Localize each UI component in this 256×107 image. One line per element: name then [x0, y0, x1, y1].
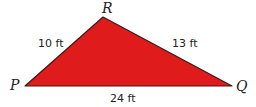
vertex-label-p: P	[9, 77, 20, 93]
side-label-rq: 13 ft	[172, 37, 198, 50]
side-label-pq: 24 ft	[110, 92, 136, 105]
triangle-diagram: R P Q 10 ft 13 ft 24 ft	[0, 0, 256, 107]
vertex-label-r: R	[101, 0, 113, 16]
side-label-pr: 10 ft	[38, 37, 64, 50]
vertex-label-q: Q	[236, 78, 248, 94]
triangle-pqr	[25, 17, 232, 86]
